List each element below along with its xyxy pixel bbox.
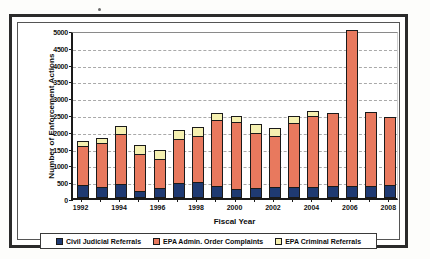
bar-group-2005[interactable] xyxy=(327,113,339,198)
legend-item[interactable]: EPA Criminal Referrals xyxy=(275,238,361,245)
x-tick-label: 2002 xyxy=(265,204,281,211)
bar-group-1995[interactable] xyxy=(134,145,146,198)
bar-segment xyxy=(307,116,319,187)
x-tick-mark xyxy=(235,198,236,202)
legend-item[interactable]: EPA Admin. Order Complaints xyxy=(153,238,263,245)
bar-segment xyxy=(115,134,127,184)
x-tick-label: 1994 xyxy=(111,204,127,211)
x-tick-label: 2004 xyxy=(304,204,320,211)
bar-segment xyxy=(154,188,166,198)
bar-segment xyxy=(192,182,204,198)
bar-segment xyxy=(211,113,223,121)
chart-legend: Civil Judicial ReferralsEPA Admin. Order… xyxy=(40,233,377,249)
bar-group-2001[interactable] xyxy=(250,124,262,198)
bar-segment xyxy=(365,186,377,198)
bar-segment xyxy=(269,128,281,136)
bar-segment xyxy=(77,185,89,198)
x-tick-label: 2000 xyxy=(227,204,243,211)
y-tick-label: 1000 xyxy=(53,163,68,170)
bar-segment xyxy=(346,30,358,186)
bar-segment xyxy=(231,122,243,189)
bar-segment xyxy=(154,159,166,188)
bar-segment xyxy=(327,186,339,198)
y-tick-label: 0 xyxy=(64,197,68,204)
bar-segment xyxy=(384,117,396,186)
legend-label: EPA Admin. Order Complaints xyxy=(163,238,263,245)
x-tick-mark xyxy=(196,198,197,202)
bar-segment xyxy=(192,136,204,182)
bar-segment xyxy=(231,189,243,198)
y-tick-mark xyxy=(69,200,73,201)
y-tick-label: 4000 xyxy=(53,62,68,69)
x-tick-label: 1996 xyxy=(150,204,166,211)
bar-segment xyxy=(192,127,204,136)
bar-group-1998[interactable] xyxy=(192,127,204,198)
bar-segment xyxy=(327,113,339,187)
x-tick-mark xyxy=(100,198,101,202)
bar-segment xyxy=(154,150,166,159)
bar-group-2008[interactable] xyxy=(384,117,396,198)
bar-group-2000[interactable] xyxy=(231,116,243,198)
bar-segment xyxy=(346,186,358,198)
bar-segment xyxy=(77,146,89,186)
bar-group-1996[interactable] xyxy=(154,150,166,198)
bar-segment xyxy=(250,133,262,189)
bar-group-2002[interactable] xyxy=(269,128,281,198)
x-tick-label: 2006 xyxy=(342,204,358,211)
bar-segment xyxy=(211,120,223,186)
bar-chart: Number of Enforcement Actions 0500100015… xyxy=(18,23,399,239)
plot-area xyxy=(71,32,398,200)
x-tick-mark xyxy=(138,198,139,202)
y-tick-label: 500 xyxy=(57,180,68,187)
bar-segment xyxy=(173,130,185,139)
y-tick-label: 4500 xyxy=(53,45,68,52)
bar-segment xyxy=(288,116,300,124)
x-axis-tick-labels: 199219941996199820002002200420062008 xyxy=(71,202,398,216)
y-tick-label: 1500 xyxy=(53,146,68,153)
x-tick-mark xyxy=(331,198,332,202)
x-tick-mark xyxy=(177,198,178,202)
bar-segment xyxy=(134,145,146,154)
legend-swatch-icon xyxy=(275,238,282,245)
bar-group-1992[interactable] xyxy=(77,141,89,198)
bar-group-1997[interactable] xyxy=(173,130,185,198)
bar-segment xyxy=(96,187,108,198)
y-axis-tick-labels: 0500100015002000250030003500400045005000 xyxy=(28,32,68,200)
y-tick-label: 3500 xyxy=(53,79,68,86)
bar-segment xyxy=(288,123,300,187)
x-axis-title: Fiscal Year xyxy=(71,217,398,226)
x-tick-mark xyxy=(292,198,293,202)
bar-group-2007[interactable] xyxy=(365,112,377,198)
bar-segment xyxy=(269,187,281,198)
x-tick-mark xyxy=(369,198,370,202)
scanned-page: Number of Enforcement Actions 0500100015… xyxy=(0,0,430,259)
bar-group-1999[interactable] xyxy=(211,113,223,198)
bar-segment xyxy=(307,187,319,198)
y-tick-label: 2500 xyxy=(53,113,68,120)
y-tick-label: 3000 xyxy=(53,96,68,103)
bar-group-2003[interactable] xyxy=(288,116,300,198)
bar-group-1994[interactable] xyxy=(115,126,127,198)
x-tick-mark xyxy=(311,198,312,202)
legend-label: Civil Judicial Referrals xyxy=(66,238,141,245)
x-tick-mark xyxy=(254,198,255,202)
x-tick-mark xyxy=(81,198,82,202)
x-tick-mark xyxy=(119,198,120,202)
x-tick-label: 1992 xyxy=(73,204,89,211)
figure-outer-border: Number of Enforcement Actions 0500100015… xyxy=(9,14,408,248)
bar-group-2004[interactable] xyxy=(307,111,319,198)
bar-segment xyxy=(211,186,223,198)
bar-segment xyxy=(134,154,146,191)
bar-segment xyxy=(173,139,185,183)
bar-segment xyxy=(288,187,300,198)
bar-group-2006[interactable] xyxy=(346,30,358,198)
legend-swatch-icon xyxy=(153,238,160,245)
bar-series-container xyxy=(73,33,397,198)
legend-item[interactable]: Civil Judicial Referrals xyxy=(56,238,141,245)
bar-segment xyxy=(96,143,108,187)
bar-group-1993[interactable] xyxy=(96,138,108,198)
x-tick-mark xyxy=(215,198,216,202)
legend-label: EPA Criminal Referrals xyxy=(285,238,361,245)
y-tick-label: 2000 xyxy=(53,129,68,136)
toner-speck-artifact xyxy=(98,8,101,11)
